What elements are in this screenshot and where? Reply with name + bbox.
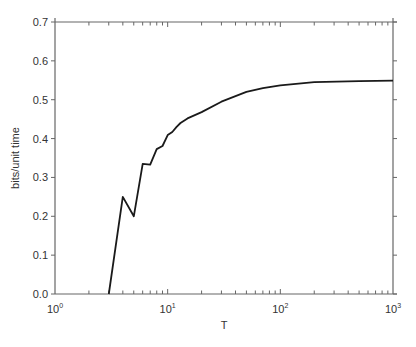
y-tick-label: 0.5 — [33, 94, 48, 106]
y-tick-label: 0.2 — [33, 210, 48, 222]
y-tick-label: 0.3 — [33, 171, 48, 183]
x-tick-label: 100 — [47, 302, 63, 315]
x-axis-label: T — [221, 319, 228, 331]
axes — [55, 18, 397, 294]
y-tick-label: 0.1 — [33, 249, 48, 261]
x-tick-label: 101 — [160, 302, 176, 315]
x-tick-label: 103 — [385, 302, 401, 315]
series-line-rate — [109, 81, 393, 294]
chart: 0.00.10.20.30.40.50.60.7100101102103 T b… — [0, 0, 416, 347]
series — [109, 81, 393, 294]
y-tick-label: 0.4 — [33, 133, 48, 145]
ticks — [51, 22, 397, 294]
y-tick-label: 0.6 — [33, 55, 48, 67]
tick-labels: 0.00.10.20.30.40.50.60.7100101102103 — [33, 16, 401, 315]
y-tick-label: 0.7 — [33, 16, 48, 28]
x-tick-label: 102 — [272, 302, 288, 315]
y-tick-label: 0.0 — [33, 288, 48, 300]
y-axis-label: bits/unit time — [9, 127, 21, 189]
